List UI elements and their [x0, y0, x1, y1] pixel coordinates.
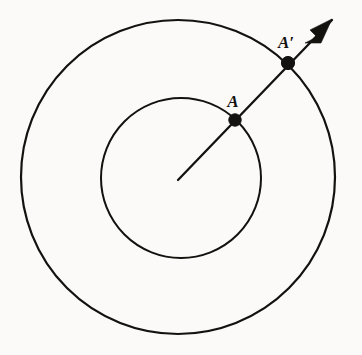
- point-label-A-prime: A′: [277, 33, 294, 52]
- point-marker-A: [229, 114, 241, 126]
- ray-arrowhead-icon: [305, 19, 332, 43]
- concentric-circles-diagram: A A′: [0, 0, 362, 355]
- point-label-A: A: [226, 92, 238, 111]
- figure-canvas: A A′: [0, 0, 362, 355]
- point-marker-A-prime: [281, 56, 294, 69]
